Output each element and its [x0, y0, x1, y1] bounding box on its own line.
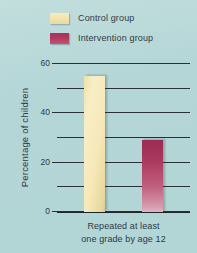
legend-label-intervention: Intervention group: [78, 33, 153, 44]
y-tick-label-40: 40: [41, 107, 50, 117]
gridline-60: 60: [57, 63, 190, 64]
gridline-10: [57, 186, 190, 187]
y-axis-title: Percentage of children: [18, 63, 32, 212]
gridline-50: [57, 88, 190, 89]
chart-legend: Control group Intervention group: [50, 11, 190, 51]
tick-20: [52, 162, 57, 163]
tick-60: [52, 63, 57, 64]
legend-item-control: Control group: [50, 11, 190, 26]
y-tick-label-60: 60: [41, 58, 50, 68]
gridline-30: [57, 137, 190, 138]
y-tick-label-0: 0: [45, 206, 50, 216]
x-axis-title-line1: Repeated at least: [57, 220, 190, 233]
x-axis-title-line2: one grade by age 12: [57, 233, 190, 246]
x-axis-line: [57, 212, 190, 213]
y-axis-title-text: Percentage of children: [20, 88, 31, 187]
y-tick-label-20: 20: [41, 157, 50, 167]
legend-item-intervention: Intervention group: [50, 31, 190, 46]
control-swatch-icon: [50, 13, 69, 24]
tick-40: [52, 112, 57, 113]
x-axis-title: Repeated at least one grade by age 12: [57, 220, 190, 245]
bar-control-group: [84, 76, 105, 212]
intervention-swatch-icon: [50, 33, 69, 44]
bar-chart: Control group Intervention group Percent…: [0, 0, 197, 253]
gridline-20: 20: [57, 162, 190, 163]
bar-intervention-group: [142, 140, 163, 212]
plot-area: 60 40 20 0: [57, 63, 190, 212]
gridline-40: 40: [57, 112, 190, 113]
legend-label-control: Control group: [78, 13, 134, 24]
